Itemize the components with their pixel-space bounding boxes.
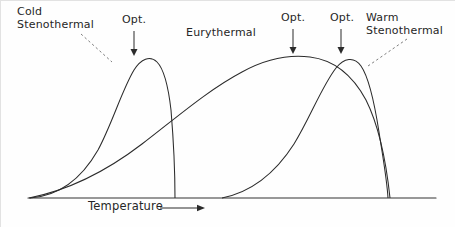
thermal-tolerance-figure: Cold Stenothermal Eurythermal Warm Steno…	[0, 0, 455, 227]
label-cold-stenothermal: Cold Stenothermal	[17, 6, 94, 31]
label-warm-stenothermal: Warm Stenothermal	[366, 12, 443, 37]
arrow-optimum-cold	[131, 31, 138, 56]
curve-cold-stenothermal	[30, 59, 175, 198]
arrow-optimum-warm	[338, 29, 345, 54]
leader-line-warm-stenothermal	[368, 39, 407, 66]
label-eurythermal: Eurythermal	[186, 27, 256, 40]
leader-line-cold-stenothermal	[81, 34, 112, 62]
label-optimum-cold: Opt.	[122, 14, 146, 27]
label-x-axis-temperature: Temperature	[88, 200, 163, 213]
x-axis-direction-arrow	[160, 205, 205, 211]
curve-warm-stenothermal	[222, 59, 388, 198]
label-optimum-eurythermal: Opt.	[281, 12, 305, 25]
arrow-optimum-eurythermal	[290, 29, 297, 54]
label-optimum-warm: Opt.	[330, 12, 354, 25]
curve-eurythermal	[29, 56, 390, 198]
